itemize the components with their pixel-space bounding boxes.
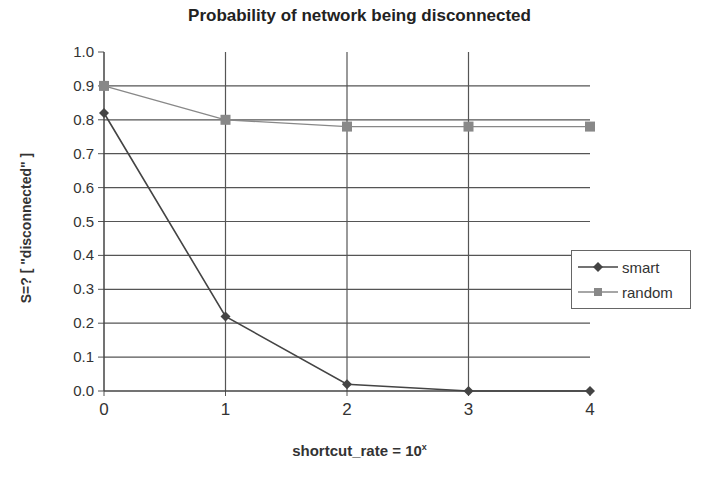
y-tick-label: 0.5 xyxy=(73,213,94,230)
diamond-marker-icon xyxy=(342,379,352,389)
y-tick-label: 0.8 xyxy=(73,111,94,128)
legend-item-random: random xyxy=(578,282,673,302)
x-tick-label: 2 xyxy=(342,400,351,419)
diamond-marker-icon xyxy=(578,261,618,273)
x-tick-label: 0 xyxy=(99,400,108,419)
square-marker-icon xyxy=(578,286,618,298)
square-marker-icon xyxy=(464,122,474,132)
square-marker-icon xyxy=(99,81,109,91)
y-tick-label: 0.2 xyxy=(73,314,94,331)
y-tick-label: 0.6 xyxy=(73,179,94,196)
x-tick-label: 3 xyxy=(464,400,473,419)
x-tick-label: 1 xyxy=(221,400,230,419)
y-tick-label: 0.3 xyxy=(73,280,94,297)
square-marker-icon xyxy=(221,115,231,125)
diamond-marker-icon xyxy=(464,386,474,396)
y-tick-label: 0.7 xyxy=(73,145,94,162)
legend: smart random xyxy=(571,250,691,309)
square-marker-icon xyxy=(342,122,352,132)
square-marker-icon xyxy=(585,122,595,132)
y-tick-label: 0.1 xyxy=(73,348,94,365)
y-tick-label: 0.9 xyxy=(73,77,94,94)
diamond-marker-icon xyxy=(99,108,109,118)
legend-item-smart: smart xyxy=(578,257,660,277)
plot-area: 0.00.10.20.30.40.50.60.70.80.91.001234 xyxy=(0,0,719,481)
y-tick-label: 0.0 xyxy=(73,382,94,399)
y-tick-label: 0.4 xyxy=(73,246,94,263)
y-tick-label: 1.0 xyxy=(73,43,94,60)
diamond-marker-icon xyxy=(585,386,595,396)
diamond-marker-icon xyxy=(221,311,231,321)
x-tick-label: 4 xyxy=(585,400,594,419)
